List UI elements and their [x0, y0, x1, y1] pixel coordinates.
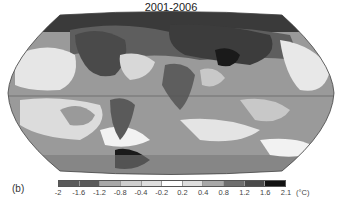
colorbar: [58, 180, 286, 187]
tick-label: -0.2: [155, 188, 168, 197]
tick-label: -0.4: [134, 188, 147, 197]
tick-label: 0.2: [177, 188, 187, 197]
tick-label: -2: [55, 188, 62, 197]
colorbar-segment: [100, 181, 121, 186]
colorbar-segment: [224, 181, 245, 186]
colorbar-segment: [245, 181, 266, 186]
tick-label: -1.2: [93, 188, 106, 197]
colorbar-segment: [142, 181, 163, 186]
tick-label: 1.6: [260, 188, 270, 197]
tick-label: -0.8: [114, 188, 127, 197]
colorbar-segment: [80, 181, 101, 186]
tick-label: 1.2: [239, 188, 249, 197]
colorbar-unit: (°C): [296, 188, 309, 197]
world-anomaly-map: [0, 0, 342, 178]
colorbar-segment: [183, 181, 204, 186]
tick-label: -1.6: [72, 188, 85, 197]
tick-label: 0.8: [219, 188, 229, 197]
colorbar-segment: [162, 181, 183, 186]
colorbar-segment: [203, 181, 224, 186]
tick-label: 0.4: [198, 188, 208, 197]
tick-label: 2.1: [281, 188, 291, 197]
colorbar-ticks: -2 -1.6 -1.2 -0.8 -0.4 -0.2 0.2 0.4 0.8 …: [58, 188, 286, 198]
colorbar-segment: [265, 181, 285, 186]
panel-label: (b): [12, 183, 24, 194]
colorbar-segment: [59, 181, 80, 186]
colorbar-segment: [121, 181, 142, 186]
